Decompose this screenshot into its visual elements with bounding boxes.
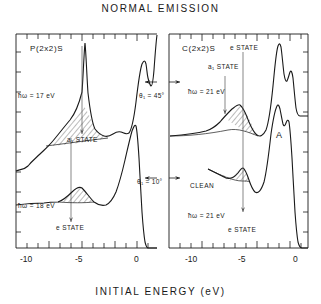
- curve-clean-21ev-shading: [208, 168, 250, 182]
- curve-clean-21ev: [208, 105, 308, 248]
- label-a1-state-left: a₁ STATE: [67, 136, 98, 143]
- figure-xlabel: INITIAL ENERGY (eV): [0, 286, 321, 297]
- left-bottom-ticks: [27, 241, 148, 248]
- right-xtick-label-2: 0: [293, 254, 298, 264]
- figure-title: NORMAL EMISSION: [0, 3, 321, 14]
- panel-left-surface-label: P(2x2)S: [30, 44, 63, 53]
- label-peak-a: A: [276, 130, 282, 140]
- right-xtick-label-0: -10: [185, 254, 197, 264]
- panel-right-surface-label: C(2x2)S: [182, 44, 216, 53]
- right-y-ticks: [303, 52, 308, 232]
- label-e-state-right-upper: e STATE: [230, 44, 258, 51]
- panel-c2x2s: C(2x2)S e STATE a₁ STATE ħω = 21 eV CLEA…: [168, 30, 310, 252]
- left-xtick-label-0: -10: [20, 254, 32, 264]
- label-clean-surface: CLEAN: [190, 182, 214, 189]
- label-e-state-left: e STATE: [56, 224, 84, 231]
- figure-canvas: NORMAL EMISSION: [0, 0, 321, 304]
- left-xtick-label-1: -5: [75, 254, 83, 264]
- right-xtick-label-1: -5: [238, 254, 246, 264]
- left-xtick-label-2: 0: [134, 254, 139, 264]
- right-top-ticks: [180, 34, 301, 41]
- label-photon-energy-17ev: ħω = 17 eV: [18, 92, 55, 99]
- label-photon-energy-21ev-lower: ħω = 21 eV: [188, 212, 225, 219]
- curve-p2x2s-18ev: [16, 125, 157, 248]
- label-photon-energy-21ev-upper: ħω = 21 eV: [188, 88, 225, 95]
- curve-p2x2s-17ev: [16, 35, 157, 171]
- label-theta-10: θ₁ = 10°: [137, 178, 162, 185]
- label-a1-state-right: a₁ STATE: [208, 63, 239, 70]
- label-e-state-right-lower: e STATE: [228, 226, 256, 233]
- label-theta-45: θ₁ = 45°: [139, 92, 164, 99]
- panel-p2x2s: P(2x2)S ħω = 17 eV ħω = 18 eV a₁ STATE e…: [14, 30, 159, 252]
- right-bottom-ticks: [180, 241, 301, 248]
- left-top-ticks: [27, 34, 148, 41]
- label-photon-energy-18ev: ħω = 18 eV: [18, 202, 55, 209]
